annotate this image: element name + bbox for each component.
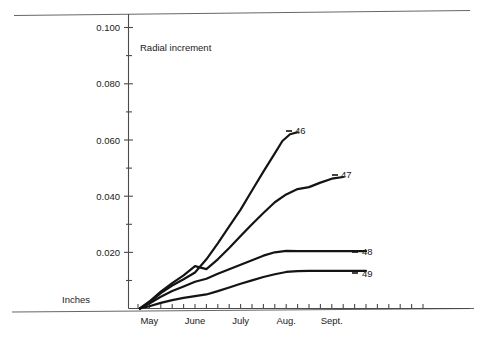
radial-increment-line-chart: 0.100 0.080 0.060 0.040 0.020 Inches Rad… [0, 0, 481, 345]
series-label-47: 47 [341, 169, 352, 180]
x-tick-label-may: May [140, 315, 158, 326]
data-curves [140, 131, 366, 309]
y-tick-label-0060: 0.060 [96, 135, 120, 146]
series-label-48: 48 [362, 246, 373, 257]
x-tick-label-sept: Sept. [321, 315, 343, 326]
series-label-49: 49 [362, 268, 373, 279]
y-tick-label-0040: 0.040 [96, 191, 120, 202]
curve-series-46 [140, 132, 298, 308]
x-tick-label-july: July [232, 315, 249, 326]
y-tick-label-0080: 0.080 [96, 78, 120, 89]
x-tick-label-aug: Aug. [276, 315, 296, 326]
chart-figure: 0.100 0.080 0.060 0.040 0.020 Inches Rad… [0, 0, 481, 345]
y-tick-label-0020: 0.020 [96, 247, 120, 258]
curve-series-47 [140, 177, 343, 309]
x-tick-label-june: June [185, 315, 206, 326]
plot-annotation: Radial increment [140, 42, 212, 53]
y-axis-unit-label: Inches [62, 294, 90, 305]
y-tick-label-0100: 0.100 [96, 22, 120, 33]
horizontal-rule-top [14, 11, 470, 16]
x-axis-tick-labels: MayJuneJulyAug.Sept. [140, 315, 342, 326]
series-label-46: 46 [295, 125, 306, 136]
